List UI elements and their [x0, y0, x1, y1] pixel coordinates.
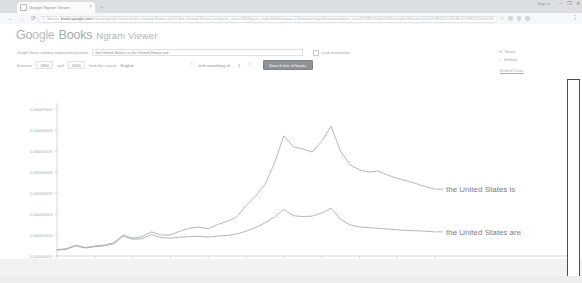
- extension-icon[interactable]: [508, 16, 513, 21]
- product-name: Ngram Viewer: [96, 30, 157, 41]
- embed-chart-link[interactable]: Embed Chart: [500, 68, 524, 73]
- google-wordmark-go: Go: [16, 28, 32, 42]
- search-button-label: Search lots of books: [269, 63, 306, 68]
- embed-code-icon: ‹›: [499, 58, 502, 62]
- y-axis-tick-label: 0.0000500%: [30, 149, 53, 154]
- lock-icon: ⚿: [42, 17, 45, 21]
- y-axis-tick-label: 0.0000100%: [30, 233, 53, 238]
- new-tab-button[interactable]: +: [100, 4, 104, 10]
- year-end-value: 2000: [72, 63, 81, 68]
- case-insensitive-checkbox-group[interactable]: case-insensitive: [313, 50, 350, 56]
- extension-icon[interactable]: [517, 16, 522, 21]
- y-axis-tick-label: 0.0000300%: [30, 191, 53, 196]
- chart-series: [57, 126, 435, 250]
- url-omnibox[interactable]: ⚿ Secure books.google.com/ngrams/graph?c…: [38, 16, 498, 24]
- page-favicon-icon: [20, 4, 27, 11]
- back-icon[interactable]: ←: [8, 16, 14, 22]
- search-button[interactable]: Search lots of books: [263, 60, 313, 70]
- window-close-icon[interactable]: ✕: [576, 1, 580, 6]
- y-axis-tick-label: 0.0000400%: [30, 170, 53, 175]
- range-controls-row: between 1800 and 2000 from the corpus En…: [17, 60, 517, 70]
- books-wordmark: Books: [59, 28, 93, 42]
- page-content: Google Books Ngram Viewer Graph these co…: [0, 24, 582, 259]
- chart-legend: the United States isthe United States ar…: [436, 185, 522, 237]
- extension-icons: [508, 16, 530, 21]
- case-insensitive-checkbox[interactable]: [313, 50, 319, 56]
- smoothing-select[interactable]: with smoothing of 3 ▾: [199, 62, 253, 69]
- page-bottom-strip: [0, 276, 582, 283]
- y-axis: 0.0000000%0.0000100%0.0000200%0.0000300%…: [30, 103, 57, 259]
- chevron-down-icon: ▾: [191, 63, 193, 66]
- url-text: books.google.com/ngrams/graph?content=th…: [61, 17, 494, 21]
- case-insensitive-label: case-insensitive: [321, 50, 349, 55]
- browser-menu-icon[interactable]: ⋮: [572, 15, 578, 21]
- legend-label: the United States are: [446, 228, 522, 237]
- and-label: and: [57, 63, 64, 68]
- between-label: between: [17, 63, 32, 68]
- page-title: Google Books Ngram Viewer: [16, 28, 157, 42]
- share-action[interactable]: ➦ Share: [499, 49, 517, 54]
- y-axis-tick-label: 0.0000000%: [30, 254, 53, 259]
- y-axis-tick-label: 0.0000600%: [30, 128, 53, 133]
- embed-action[interactable]: ‹› Embed: [499, 57, 517, 62]
- bookmark-star-icon[interactable]: ☆: [500, 16, 504, 21]
- maximize-icon[interactable]: ❐: [567, 1, 571, 6]
- url-domain: books.google.com: [61, 17, 92, 21]
- window-controls: Sign in – ❐ ✕: [537, 1, 580, 6]
- forward-icon[interactable]: →: [20, 16, 26, 22]
- y-axis-tick-label: 0.0000200%: [30, 212, 53, 217]
- query-input-value: the United States is,the United States a…: [95, 50, 168, 55]
- chart-actions: ➦ Share ‹› Embed: [499, 49, 517, 62]
- corpus-selected-value: English: [121, 63, 134, 68]
- series-line[interactable]: [57, 208, 435, 250]
- query-input[interactable]: the United States is,the United States a…: [92, 49, 303, 57]
- year-end-input[interactable]: 2000: [68, 61, 85, 70]
- share-icon: ➦: [499, 50, 502, 54]
- browser-chrome: Google Ngram Viewer × + Sign in – ❐ ✕ ← …: [0, 0, 582, 25]
- secure-label: Secure: [47, 17, 59, 21]
- browser-tab-title: Google Ngram Viewer: [29, 5, 87, 10]
- smoothing-label: with smoothing of: [199, 63, 230, 68]
- minimize-icon[interactable]: –: [559, 1, 562, 6]
- chart-svg: 0.0000000%0.0000100%0.0000200%0.0000300%…: [0, 76, 582, 259]
- year-start-value: 1800: [40, 63, 49, 68]
- google-wordmark-ogle: ogle: [32, 28, 54, 42]
- reload-icon[interactable]: ⟳: [31, 16, 36, 22]
- ngram-chart[interactable]: 0.0000000%0.0000100%0.0000200%0.0000300%…: [0, 76, 582, 259]
- sign-in-label[interactable]: Sign in: [537, 1, 550, 6]
- corpus-select[interactable]: English ▾: [121, 62, 195, 69]
- year-start-input[interactable]: 1800: [36, 61, 53, 70]
- google-wordmark: Google: [16, 28, 55, 42]
- close-icon[interactable]: ×: [89, 5, 92, 10]
- chevron-down-icon: ▾: [249, 63, 251, 66]
- corpus-label: from the corpus: [89, 63, 117, 68]
- smoothing-selected-value: 3: [238, 63, 240, 68]
- profile-avatar-icon[interactable]: [525, 16, 530, 21]
- y-axis-tick-label: 0.0000700%: [30, 107, 53, 112]
- side-panel[interactable]: [567, 79, 580, 277]
- x-axis: 1800182018401860188019001920194019601980…: [52, 256, 576, 259]
- query-controls-row: Graph these comma-separated phrases: the…: [17, 48, 517, 57]
- browser-tab[interactable]: Google Ngram Viewer ×: [17, 2, 95, 14]
- legend-label: the United States is: [446, 185, 515, 194]
- share-label: Share: [505, 49, 516, 54]
- embed-label: Embed: [504, 57, 517, 62]
- tab-strip: Google Ngram Viewer × + Sign in – ❐ ✕: [0, 0, 582, 13]
- url-path: /ngrams/graph?content=the+United+States+…: [92, 17, 494, 21]
- query-label: Graph these comma-separated phrases:: [17, 50, 89, 55]
